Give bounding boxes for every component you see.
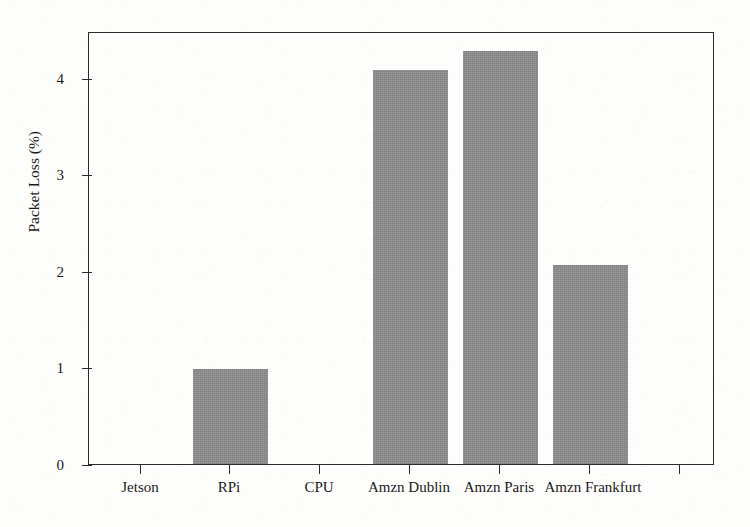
- x-tick-label-jetson: Jetson: [121, 480, 159, 495]
- x-tick-mark-2: [319, 465, 320, 474]
- y-tick-mark-0: [82, 465, 92, 466]
- x-tick-label-cpu: CPU: [304, 480, 333, 495]
- x-tick-mark-3: [409, 465, 410, 474]
- x-tick-mark-4: [499, 465, 500, 474]
- x-tick-label-amzn-dublin: Amzn Dublin: [368, 480, 450, 495]
- figure-canvas: Packet Loss (%) 0 1 2 3 4 Jetson RPi CPU…: [0, 0, 750, 527]
- plot-area-frame: [88, 32, 714, 465]
- x-tick-mark-6: [679, 465, 680, 474]
- x-tick-mark-0: [140, 465, 141, 474]
- y-tick-label-1: 1: [40, 361, 64, 376]
- x-tick-mark-5: [589, 465, 590, 474]
- y-tick-label-2: 2: [40, 265, 64, 280]
- x-tick-label-amzn-paris: Amzn Paris: [464, 480, 534, 495]
- x-tick-mark-1: [229, 465, 230, 474]
- y-tick-label-4: 4: [40, 72, 64, 87]
- x-tick-label-rpi: RPi: [218, 480, 241, 495]
- x-tick-label-amzn-frankfurt: Amzn Frankfurt: [544, 480, 641, 495]
- y-tick-label-3: 3: [40, 168, 64, 183]
- y-tick-label-0: 0: [40, 458, 64, 473]
